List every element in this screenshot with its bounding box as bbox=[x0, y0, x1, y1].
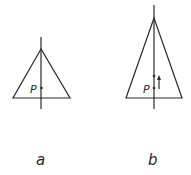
shifted-point-b bbox=[153, 75, 156, 78]
caption-b: b bbox=[148, 151, 158, 169]
arrow-up-icon bbox=[157, 75, 161, 89]
caption-a: a bbox=[36, 151, 45, 169]
point-p-b bbox=[153, 87, 156, 90]
point-label-b: P bbox=[143, 83, 150, 96]
figure-canvas: P a P b bbox=[0, 0, 191, 175]
panel-b: P b bbox=[126, 5, 182, 169]
panel-a: P a bbox=[13, 37, 70, 169]
point-p-a bbox=[40, 87, 43, 90]
point-label-a: P bbox=[30, 83, 37, 96]
